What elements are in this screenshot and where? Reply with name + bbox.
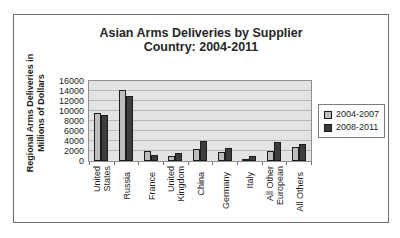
bar-2008-2011-china bbox=[200, 141, 207, 162]
y-axis-title-line1: Regional Arms Deliveries in bbox=[25, 49, 36, 177]
bar-2008-2011-france bbox=[151, 155, 158, 161]
y-tick-label-14000: 14000 bbox=[38, 86, 84, 96]
legend-swatch-2004-2007 bbox=[324, 111, 332, 119]
legend-label-2008-2011: 2008-2011 bbox=[336, 123, 378, 132]
bar-2004-2007-all-other-european bbox=[267, 151, 274, 161]
bar-2004-2007-china bbox=[193, 149, 200, 162]
bar-2008-2011-all-others bbox=[299, 144, 306, 162]
bar-2008-2011-all-other-european bbox=[274, 142, 281, 161]
bar-2004-2007-germany bbox=[218, 152, 225, 161]
y-tick-label-0: 0 bbox=[38, 156, 84, 166]
x-axis-tick-mark bbox=[163, 162, 164, 165]
x-axis-tick-mark bbox=[262, 162, 263, 165]
bar-2004-2007-russia bbox=[119, 90, 126, 161]
bar-2004-2007-france bbox=[144, 151, 151, 161]
legend-item-2004-2007: 2004-2007 bbox=[324, 110, 379, 119]
bar-2008-2011-united-states bbox=[101, 115, 108, 161]
x-axis-tick-mark bbox=[286, 162, 287, 165]
y-tick-label-8000: 8000 bbox=[38, 116, 84, 126]
bar-2008-2011-germany bbox=[225, 148, 232, 162]
bar-2004-2007-italy bbox=[242, 159, 249, 161]
legend: 2004-2007 2008-2011 bbox=[318, 104, 385, 138]
x-axis-tick-mark bbox=[188, 162, 189, 165]
document-page: Asian Arms Deliveries by Supplier Countr… bbox=[0, 0, 400, 238]
chart-title-line2: Country: 2004-2011 bbox=[14, 40, 388, 54]
x-axis-tick-mark bbox=[114, 162, 115, 165]
y-tick-label-4000: 4000 bbox=[38, 136, 84, 146]
chart-title: Asian Arms Deliveries by Supplier Countr… bbox=[14, 26, 388, 54]
bar-2008-2011-russia bbox=[126, 96, 133, 162]
legend-swatch-2008-2011 bbox=[324, 124, 332, 132]
y-tick-label-16000: 16000 bbox=[38, 76, 84, 86]
x-axis-tick-mark bbox=[89, 162, 90, 165]
x-axis-tick-mark bbox=[311, 162, 312, 165]
bar-2004-2007-united-states bbox=[94, 113, 101, 162]
bar-2008-2011-italy bbox=[249, 156, 256, 161]
y-tick-label-10000: 10000 bbox=[38, 106, 84, 116]
y-tick-label-6000: 6000 bbox=[38, 126, 84, 136]
chart-title-line1: Asian Arms Deliveries by Supplier bbox=[14, 26, 388, 40]
legend-label-2004-2007: 2004-2007 bbox=[336, 110, 379, 119]
x-axis-tick-mark bbox=[138, 162, 139, 165]
bar-2004-2007-all-others bbox=[292, 147, 299, 162]
y-tick-label-2000: 2000 bbox=[38, 146, 84, 156]
legend-item-2008-2011: 2008-2011 bbox=[324, 123, 379, 132]
bar-2008-2011-united-kingdom bbox=[175, 153, 182, 162]
bar-2004-2007-united-kingdom bbox=[168, 156, 175, 161]
x-axis-tick-mark bbox=[237, 162, 238, 165]
y-tick-label-12000: 12000 bbox=[38, 96, 84, 106]
x-axis-tick-mark bbox=[212, 162, 213, 165]
plot-area bbox=[88, 80, 312, 162]
